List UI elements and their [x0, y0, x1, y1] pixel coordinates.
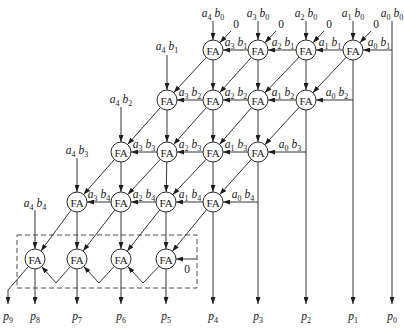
full-adder-node: FA [296, 40, 316, 60]
full-adder-label: FA [114, 147, 127, 159]
diagonal-wire [265, 57, 299, 93]
full-adder-label: FA [70, 197, 83, 209]
output-label: p5 [160, 310, 171, 325]
full-adder-label: FA [299, 95, 312, 107]
output-label: p4 [207, 310, 218, 325]
output-wire-p9 [8, 267, 28, 305]
input-label: a4b4 [24, 197, 47, 212]
full-adder-node: FA [111, 192, 131, 212]
input-label: a1b0 [342, 7, 365, 22]
input-label: a4b1 [156, 40, 179, 55]
full-adder-label: FA [299, 45, 312, 57]
full-adder-label: FA [159, 197, 172, 209]
partial-product-label: a2b1 [272, 36, 295, 51]
full-adder-node: FA [296, 90, 316, 110]
full-adder-label: FA [206, 147, 219, 159]
output-label: p6 [115, 310, 126, 325]
full-adder-node: FA [25, 249, 45, 269]
full-adder-label: FA [70, 254, 83, 266]
partial-product-label: a3b3 [133, 138, 156, 153]
full-adder-node: FA [203, 90, 223, 110]
diagonal-wire [172, 210, 206, 252]
partial-product-label: a0b2 [326, 86, 349, 101]
partial-product-label: a1b2 [272, 86, 295, 101]
partial-product-label: a1b3 [225, 138, 248, 153]
full-adder-node: FA [157, 142, 177, 162]
ripple-carry-wire [84, 266, 114, 283]
full-adder-label: FA [206, 45, 219, 57]
zero-label: 0 [233, 18, 239, 30]
partial-product-label: a2b2 [225, 86, 248, 101]
full-adder-label: FA [160, 147, 173, 159]
full-adder-label: FA [251, 147, 264, 159]
full-adder-label: FA [206, 95, 219, 107]
zero-label: 0 [326, 18, 332, 30]
partial-product-label: a0b4 [232, 188, 255, 203]
ripple-carry-wire [42, 267, 71, 284]
full-adder-node: FA [203, 192, 223, 212]
partial-product-label: a0b1 [368, 36, 391, 51]
input-label: a3b0 [247, 7, 270, 22]
partial-product-label: a3b2 [179, 86, 202, 101]
partial-product-label: a1b4 [179, 188, 202, 203]
diagonal-wire [127, 210, 160, 251]
diagonal-wire [83, 210, 115, 251]
input-label: a0b0 [381, 7, 404, 22]
full-adder-node: FA [67, 192, 87, 212]
partial-product-label: a0b3 [279, 138, 302, 153]
output-label: p3 [252, 310, 263, 325]
full-adder-node: FA [111, 249, 131, 269]
input-label: a4b3 [66, 144, 89, 159]
wires-layer [8, 21, 392, 304]
full-adder-node: FA [248, 142, 268, 162]
partial-product-label: a1b1 [319, 36, 342, 51]
full-adder-label: FA [114, 254, 127, 266]
full-adder-node: FA [248, 90, 268, 110]
partial-product-label: a3b4 [88, 188, 111, 203]
full-adder-label: FA [159, 254, 172, 266]
partial-product-label: a2b3 [179, 138, 202, 153]
full-adder-node: FA [111, 142, 131, 162]
full-adder-node: FA [203, 40, 223, 60]
full-adder-label: FA [114, 197, 127, 209]
full-adder-node: FA [343, 40, 363, 60]
zero-label: 0 [373, 18, 379, 30]
output-label: p9 [2, 310, 13, 325]
array-multiplier-diagram: FAFAFAFAFAFAFAFAFAFAFAFAFAFAFAFAFAFAFAFA… [0, 0, 404, 328]
full-adder-label: FA [28, 254, 41, 266]
full-adder-node: FA [67, 249, 87, 269]
diagonal-wire [41, 210, 71, 251]
input-label: a4b0 [202, 7, 225, 22]
full-adder-label: FA [251, 95, 264, 107]
ripple-carry-wire [128, 266, 159, 283]
full-adder-label: FA [206, 197, 219, 209]
vertical-wire [166, 162, 167, 192]
output-label: p0 [386, 310, 397, 325]
output-label: p2 [300, 310, 311, 325]
input-label: a4b2 [110, 93, 133, 108]
full-adder-node: FA [157, 90, 177, 110]
output-label: p7 [71, 310, 82, 325]
partial-product-label: a2b4 [133, 188, 156, 203]
zero-label: 0 [184, 263, 190, 275]
signal-labels: a4b0a3b0a2b0a1b0a0b00000a3b1a2b1a1b1a0b1… [2, 7, 403, 325]
full-adder-label: FA [251, 45, 264, 57]
full-adder-node: FA [203, 142, 223, 162]
full-adder-label: FA [346, 45, 359, 57]
full-adder-node: FA [248, 40, 268, 60]
full-adder-node: FA [156, 249, 176, 269]
full-adder-label: FA [160, 95, 173, 107]
full-adder-node: FA [156, 192, 176, 212]
zero-label: 0 [278, 18, 284, 30]
partial-product-label: a3b1 [225, 36, 248, 51]
input-label: a2b0 [295, 7, 318, 22]
output-label: p8 [29, 310, 40, 325]
output-label: p1 [347, 310, 358, 325]
